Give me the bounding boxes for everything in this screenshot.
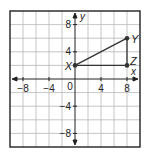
x-tick-neg8: −8 — [17, 83, 29, 94]
x-axis-right-arrow-icon — [133, 77, 138, 81]
y-axis-label: y — [79, 11, 86, 22]
y-tick-neg8: −8 — [60, 128, 72, 139]
x-tick-4: 4 — [98, 83, 104, 94]
point-x — [73, 63, 78, 68]
point-x-label: X — [64, 60, 73, 72]
axes — [12, 13, 138, 145]
y-tick-neg4: −4 — [60, 101, 72, 112]
y-axis-up-arrow-icon — [73, 13, 77, 18]
x-tick-neg4: −4 — [43, 83, 55, 94]
x-axis-label: x — [130, 66, 137, 77]
y-tick-4: 4 — [65, 46, 71, 57]
point-z-label: Z — [129, 55, 138, 67]
y-axis-down-arrow-icon — [73, 140, 77, 145]
point-y-label: Y — [131, 33, 139, 45]
y-tick-8: 8 — [65, 19, 71, 30]
origin-label: 0 — [67, 81, 73, 92]
point-y — [125, 36, 130, 41]
point-z — [125, 63, 130, 68]
x-axis-left-arrow-icon — [12, 77, 17, 81]
coordinate-plane: −8 −4 0 4 8 8 4 −4 −8 y x X Y Z — [0, 0, 150, 155]
x-tick-8: 8 — [124, 83, 130, 94]
